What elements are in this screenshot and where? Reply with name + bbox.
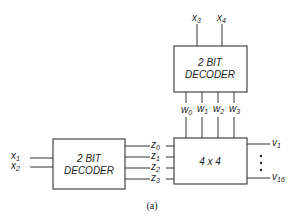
- top-decoder-subtitle: DECODER: [185, 69, 235, 80]
- top-decoder: x3 x4 2 BIT DECODER: [174, 12, 247, 92]
- left-decoder-title: 2 BIT: [76, 153, 102, 164]
- figure-caption: (a): [146, 200, 157, 212]
- w-wires: w0 w1 w2 w3: [180, 92, 240, 138]
- top-decoder-title: 2 BIT: [197, 57, 223, 68]
- left-decoder-box: [53, 139, 125, 189]
- left-decoder-subtitle: DECODER: [64, 165, 114, 176]
- v1-label: v1: [272, 137, 281, 149]
- left-decoder: x1 x2 2 BIT DECODER: [10, 139, 125, 189]
- x4-label: x4: [216, 12, 226, 24]
- z-wires: z0 z1 z2 z3: [125, 139, 174, 184]
- matrix-label: 4 x 4: [199, 156, 221, 167]
- ellipsis-dots: [260, 155, 262, 171]
- v16-label: v16: [272, 171, 285, 183]
- decoder-diagram: x3 x4 2 BIT DECODER w0 w1 w2 w3 x1 x2 2 …: [0, 0, 297, 224]
- x3-label: x3: [191, 12, 201, 24]
- matrix: 4 x 4 v1 v16: [174, 137, 285, 184]
